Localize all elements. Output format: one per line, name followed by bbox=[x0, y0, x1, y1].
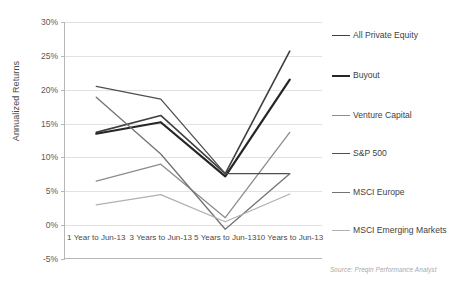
legend-label: MSCI Europe bbox=[353, 187, 457, 198]
legend-swatch-icon bbox=[332, 115, 350, 116]
legend-swatch-icon bbox=[332, 153, 350, 154]
x-axis-tick-label: 10 Years to Jun-13 bbox=[253, 232, 327, 243]
legend-item[interactable]: MSCI Emerging Markets bbox=[332, 225, 458, 236]
y-axis-tick-label: -5% bbox=[22, 255, 58, 264]
legend-item[interactable]: All Private Equity bbox=[332, 30, 458, 41]
series-line bbox=[96, 86, 290, 173]
legend-swatch-icon bbox=[332, 192, 350, 193]
x-axis-labels: 1 Year to Jun-133 Years to Jun-135 Years… bbox=[64, 232, 322, 276]
legend-label: Buyout bbox=[353, 70, 457, 81]
series-layer bbox=[64, 22, 322, 259]
legend-item[interactable]: MSCI Europe bbox=[332, 187, 458, 198]
legend-label: MSCI Emerging Markets bbox=[353, 225, 457, 236]
x-axis-tick-label: 5 Years to Jun-13 bbox=[188, 232, 262, 243]
y-axis-tick-label: 20% bbox=[22, 86, 58, 95]
legend-label: All Private Equity bbox=[353, 30, 457, 41]
y-axis-tick-label: 10% bbox=[22, 153, 58, 162]
y-axis-tick-label: 30% bbox=[22, 18, 58, 27]
series-line bbox=[96, 80, 290, 177]
chart-container: Annualized Returns 30%25%20%15%10%5%0%-5… bbox=[0, 0, 460, 286]
y-axis-tick-label: 25% bbox=[22, 52, 58, 61]
y-axis-tick-label: 5% bbox=[22, 187, 58, 196]
source-note: Source: Preqin Performance Analyst bbox=[330, 266, 437, 273]
legend-item[interactable]: S&P 500 bbox=[332, 148, 458, 159]
y-axis: Annualized Returns 30%25%20%15%10%5%0%-5… bbox=[0, 0, 60, 286]
legend-swatch-icon bbox=[332, 230, 350, 231]
legend-label: Venture Capital bbox=[353, 110, 457, 121]
series-line bbox=[96, 51, 290, 174]
legend-item[interactable]: Venture Capital bbox=[332, 110, 458, 121]
legend-swatch-icon bbox=[332, 35, 350, 36]
x-axis-tick-label: 1 Year to Jun-13 bbox=[59, 232, 133, 243]
legend-label: S&P 500 bbox=[353, 148, 457, 159]
x-axis-tick-label: 3 Years to Jun-13 bbox=[124, 232, 198, 243]
y-axis-title: Annualized Returns bbox=[11, 41, 21, 161]
y-axis-tick-label: 0% bbox=[22, 221, 58, 230]
series-line bbox=[96, 97, 290, 229]
legend-swatch-icon bbox=[332, 75, 350, 77]
y-axis-tick-label: 15% bbox=[22, 120, 58, 129]
legend-item[interactable]: Buyout bbox=[332, 70, 458, 81]
